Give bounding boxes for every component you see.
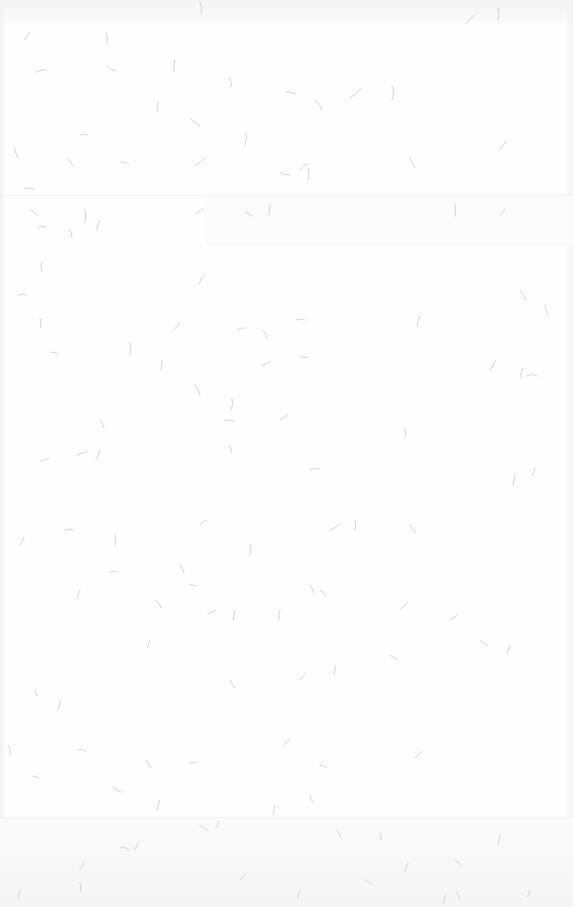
paper-texture-page bbox=[0, 0, 573, 907]
paper-fibers-decoration bbox=[0, 0, 573, 907]
